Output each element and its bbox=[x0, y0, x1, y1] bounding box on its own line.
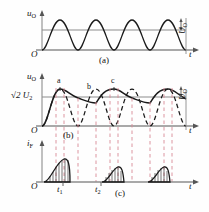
panel-b-y-axis-label: uO bbox=[27, 72, 36, 82]
panel-b-caption: (b) bbox=[63, 131, 74, 140]
panel-c-caption: (c) bbox=[115, 189, 125, 198]
panel-a-x-arrow bbox=[193, 48, 199, 53]
panel-a-y-axis-label: uO bbox=[27, 9, 36, 19]
panel-c-y-axis-label: iF bbox=[27, 139, 33, 149]
panel-b-y-arrow bbox=[40, 73, 45, 79]
panel-b-x-arrow bbox=[193, 124, 199, 129]
panel-b-point-label-a: a bbox=[57, 77, 61, 85]
panel-c-time-mark-t1: t1 bbox=[57, 185, 63, 195]
panel-c-x-axis-label: t bbox=[189, 182, 192, 191]
panel-b-point-label-b: b bbox=[87, 83, 91, 91]
panel-a-uo-arrow-up bbox=[179, 18, 182, 22]
panel-a-rectified-waveform bbox=[42, 20, 186, 50]
panel-c-graph bbox=[36, 140, 199, 186]
panel-b-peak-label: √2 U2 bbox=[11, 91, 32, 101]
panel-b-origin-label: O bbox=[31, 126, 38, 135]
panel-a-y-arrow bbox=[40, 10, 45, 16]
panel-c-x-arrow bbox=[193, 180, 199, 185]
panel-b-point-label-c: c bbox=[111, 77, 115, 85]
panel-c-pulse-1 bbox=[44, 159, 70, 182]
panel-c-origin-label: O bbox=[31, 182, 38, 191]
panel-c-time-mark-t2: t2 bbox=[95, 185, 101, 195]
rectifier-waveform-figure: uO O t UO (a) uO √2 U2 O t UO a b c (b) … bbox=[0, 0, 209, 212]
panel-a-level-label: UO bbox=[178, 23, 188, 34]
panel-b-x-axis-label: t bbox=[189, 126, 192, 135]
panel-c-y-arrow bbox=[40, 140, 45, 146]
panel-a-origin-label: O bbox=[31, 50, 38, 59]
panel-b-level-label: UO bbox=[178, 89, 188, 100]
panel-a-graph bbox=[36, 10, 199, 54]
panel-a-x-axis-label: t bbox=[189, 50, 192, 59]
panel-a-caption: (a) bbox=[99, 56, 109, 65]
